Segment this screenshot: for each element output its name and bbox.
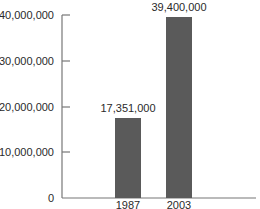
y-tick-label: 30,000,000 bbox=[0, 55, 54, 67]
y-ticks bbox=[62, 15, 70, 152]
y-tick-label: 0 bbox=[48, 192, 54, 204]
bar-1987 bbox=[115, 118, 141, 198]
bar-chart: 40,000,000 30,000,000 20,000,000 10,000,… bbox=[0, 0, 260, 209]
y-tick-label: 40,000,000 bbox=[0, 9, 54, 21]
y-tick-label: 10,000,000 bbox=[0, 146, 54, 158]
value-label-1987: 17,351,000 bbox=[100, 102, 155, 114]
y-tick-label: 20,000,000 bbox=[0, 101, 54, 113]
value-label-2003: 39,400,000 bbox=[151, 1, 206, 13]
category-label-2003: 2003 bbox=[167, 199, 191, 209]
bar-2003 bbox=[166, 17, 192, 198]
category-label-1987: 1987 bbox=[116, 199, 140, 209]
